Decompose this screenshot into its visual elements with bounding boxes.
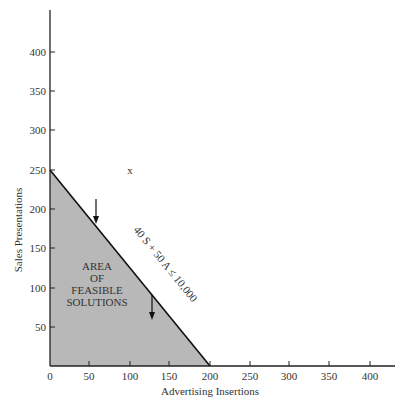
svg-text:250: 250: [242, 370, 259, 382]
arrow-down-icon: [93, 199, 99, 224]
svg-text:200: 200: [202, 370, 219, 382]
x-tick-labels: 0 50 100 150 200 250 300 350 400: [47, 370, 379, 382]
svg-text:350: 350: [30, 85, 47, 97]
svg-text:100: 100: [30, 282, 47, 294]
svg-text:OF: OF: [90, 272, 104, 284]
svg-text:50: 50: [35, 321, 47, 333]
svg-text:300: 300: [281, 370, 298, 382]
svg-text:50: 50: [84, 370, 96, 382]
svg-text:300: 300: [30, 124, 47, 136]
svg-text:FEASIBLE: FEASIBLE: [71, 284, 123, 296]
svg-text:0: 0: [47, 370, 53, 382]
svg-text:100: 100: [122, 370, 139, 382]
svg-text:400: 400: [362, 370, 379, 382]
y-tick-labels: 50 100 150 200 250 300 350 400: [30, 46, 47, 333]
svg-text:150: 150: [161, 370, 178, 382]
y-axis-label: Sales Presentations: [12, 188, 24, 273]
svg-text:250: 250: [30, 164, 47, 176]
svg-text:SOLUTIONS: SOLUTIONS: [66, 296, 127, 308]
svg-text:150: 150: [30, 242, 47, 254]
svg-text:AREA: AREA: [82, 260, 112, 272]
svg-text:200: 200: [30, 203, 47, 215]
svg-text:400: 400: [30, 46, 47, 58]
point-marker-x: x: [127, 164, 133, 176]
x-axis-label: Advertising Insertions: [161, 385, 259, 397]
chart: 50 100 150 200 250 300 350 400 0 50 100 …: [0, 0, 408, 406]
svg-text:350: 350: [321, 370, 338, 382]
